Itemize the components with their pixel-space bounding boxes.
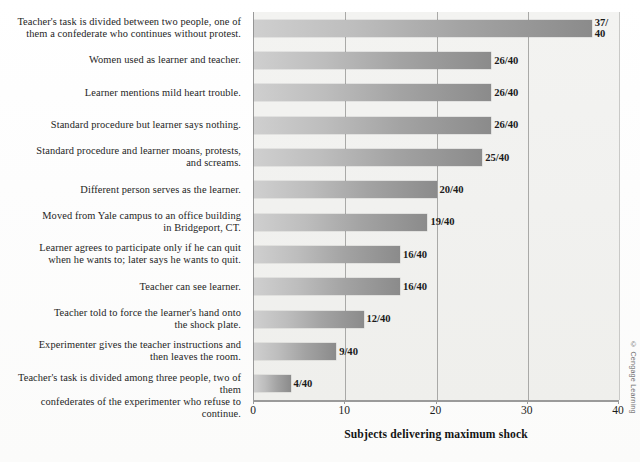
- x-tick-label-20: 20: [430, 404, 442, 416]
- bar: [254, 278, 400, 295]
- category-label-column: Teacher's task is divided between two pe…: [0, 12, 249, 400]
- category-label: Moved from Yale campus to an office buil…: [0, 210, 241, 235]
- bar-value-label: 16/40: [403, 249, 427, 261]
- x-tick-label-10: 10: [339, 404, 351, 416]
- category-label: Learner agrees to participate only if he…: [0, 242, 241, 267]
- bar-value-label: 26/40: [494, 119, 518, 131]
- bar: [254, 84, 491, 101]
- bar: [254, 149, 482, 166]
- category-label: Teacher's task is divided between two pe…: [0, 16, 241, 41]
- category-label: Standard procedure but learner says noth…: [0, 119, 241, 131]
- bar-value-label: 16/40: [403, 281, 427, 293]
- bar: [254, 311, 364, 328]
- gridline-20: [437, 12, 438, 400]
- category-label: Different person serves as the learner.: [0, 184, 241, 196]
- chart-page: Teacher's task is divided between two pe…: [0, 0, 640, 462]
- category-label: Experimenter gives the teacher instructi…: [0, 339, 241, 364]
- x-tick-label-0: 0: [250, 404, 256, 416]
- bar-value-label: 4/40: [294, 378, 313, 390]
- bar: [254, 52, 491, 69]
- category-label: Teacher's task is divided among three pe…: [0, 372, 241, 421]
- plot-area: [253, 12, 619, 400]
- bar-value-label: 26/40: [494, 87, 518, 99]
- category-label: Teacher can see learner.: [0, 281, 241, 293]
- bar-value-label: 25/40: [485, 152, 509, 164]
- category-label: Teacher told to force the learner's hand…: [0, 307, 241, 332]
- gridline-10: [345, 12, 346, 400]
- x-axis-title: Subjects delivering maximum shock: [253, 428, 619, 441]
- category-label: Standard procedure and learner moans, pr…: [0, 145, 241, 170]
- bar-value-label: 19/40: [430, 216, 454, 228]
- bar: [254, 181, 437, 198]
- bar: [254, 246, 400, 263]
- bar-value-label: 37/ 40: [595, 17, 609, 40]
- bar: [254, 117, 491, 134]
- copyright-credit: © Cengage Learning: [629, 340, 638, 414]
- bar: [254, 375, 291, 392]
- x-tick-label-30: 30: [521, 404, 533, 416]
- category-label: Women used as learner and teacher.: [0, 54, 241, 66]
- gridline-30: [528, 12, 529, 400]
- bar: [254, 214, 427, 231]
- bar-value-label: 20/40: [440, 184, 464, 196]
- bar-value-label: 9/40: [339, 346, 358, 358]
- x-tick-label-40: 40: [612, 404, 624, 416]
- bar: [254, 343, 336, 360]
- bar-value-label: 12/40: [367, 313, 391, 325]
- bar: [254, 20, 592, 37]
- bar-value-label: 26/40: [494, 55, 518, 67]
- category-label: Learner mentions mild heart trouble.: [0, 87, 241, 99]
